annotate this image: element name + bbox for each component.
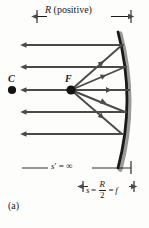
fraction-denominator: 2 xyxy=(99,191,106,200)
image-distance-value: ∞ xyxy=(66,161,72,171)
image-distance-prime: ′ xyxy=(55,161,57,171)
fraction-numerator: R xyxy=(99,180,107,189)
object-distance-symbol: s xyxy=(86,186,90,195)
image-distance-equals: = xyxy=(59,161,64,171)
focal-length-equation: s = R 2 = f xyxy=(86,180,118,200)
focal-equals-1: = xyxy=(91,186,96,195)
concave-mirror-diagram xyxy=(0,0,149,228)
reflected-ray-2-arrowhead xyxy=(100,72,107,80)
center-of-curvature-label: C xyxy=(8,74,15,84)
axis-ray-arrowhead xyxy=(106,87,112,93)
focal-point-dot xyxy=(66,85,75,94)
concave-mirror xyxy=(118,32,129,170)
image-distance-dimension-line xyxy=(22,161,131,174)
focal-point-label: F xyxy=(65,74,72,84)
center-of-curvature-point xyxy=(8,86,16,94)
focal-equals-2: = xyxy=(109,186,114,195)
radius-over-two-fraction: R 2 xyxy=(99,180,107,200)
radius-qualifier: (positive) xyxy=(54,4,92,15)
incoming-parallel-rays xyxy=(26,45,130,134)
reflected-ray-4 xyxy=(71,90,125,112)
image-distance-label: s′ = ∞ xyxy=(51,162,72,171)
radius-label: R (positive) xyxy=(45,5,92,15)
reflected-ray-2 xyxy=(71,67,125,90)
focal-length-symbol: f xyxy=(115,186,118,195)
radius-symbol: R xyxy=(45,4,51,15)
panel-label: (a) xyxy=(8,201,19,211)
